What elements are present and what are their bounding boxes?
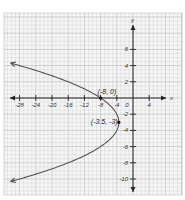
- x-tick-label: -24: [31, 102, 40, 108]
- x-tick-label: -8: [98, 102, 104, 108]
- x-tick-label: -16: [64, 102, 73, 108]
- y-tick-label: -6: [123, 144, 129, 150]
- y-tick-label: -2: [123, 111, 129, 117]
- parabola-graph: xy -28-24-20-16-12-8-404642-2-4-6-8-10 (…: [0, 0, 185, 200]
- y-tick-label: 2: [124, 79, 129, 85]
- point-label: (-3.5, -3): [91, 118, 118, 126]
- y-tick-label: -8: [123, 160, 129, 166]
- x-tick-label: -28: [15, 102, 24, 108]
- x-tick-label: -4: [114, 102, 120, 108]
- point-label: (-8, 0): [98, 88, 117, 96]
- point-marker: [99, 96, 102, 99]
- y-tick-label: -4: [123, 127, 129, 133]
- x-tick-label: -20: [48, 102, 57, 108]
- point-marker: [117, 121, 120, 124]
- x-tick-label: -12: [80, 102, 89, 108]
- y-tick-label: -10: [119, 176, 128, 182]
